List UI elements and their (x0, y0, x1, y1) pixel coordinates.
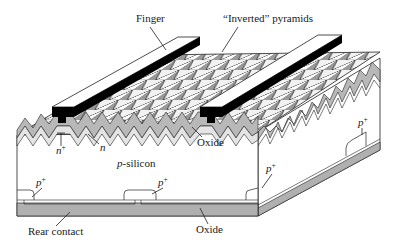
label-oxide-bottom: Oxide (196, 223, 223, 235)
label-rear-contact: Rear contact (28, 225, 83, 237)
label-oxide-top: Oxide (197, 136, 224, 148)
label-finger: Finger (136, 12, 165, 24)
label-n: n (100, 141, 106, 153)
label-inverted-pyramids: “Inverted” pyramids (223, 12, 313, 24)
label-p-silicon: p-silicon (116, 157, 156, 169)
solar-cell-diagram: Finger “Inverted” pyramids n+ n p-silico… (0, 0, 394, 247)
